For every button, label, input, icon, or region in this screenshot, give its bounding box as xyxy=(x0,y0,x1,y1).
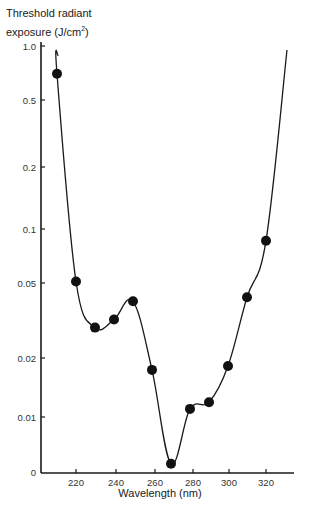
x-axis-ticks: 220240260280300320 xyxy=(68,469,274,488)
data-point-marker xyxy=(185,404,195,414)
chart-plot: 1.00.50.20.10.050.020.010 22024026028030… xyxy=(0,0,310,520)
data-point-marker xyxy=(90,323,100,333)
data-point-marker xyxy=(204,397,214,407)
data-point-marker xyxy=(52,69,62,79)
data-points xyxy=(52,69,271,469)
data-curve xyxy=(56,50,287,464)
y-tick-label: 0.5 xyxy=(23,95,36,106)
data-point-marker xyxy=(166,459,176,469)
data-point-marker xyxy=(223,361,233,371)
data-point-marker xyxy=(242,292,252,302)
x-tick-label: 300 xyxy=(221,477,237,488)
y-tick-label: 0.1 xyxy=(23,224,36,235)
y-tick-label: 0 xyxy=(31,467,36,478)
x-tick-label: 220 xyxy=(68,477,84,488)
data-point-marker xyxy=(71,277,81,287)
axes xyxy=(41,42,294,473)
y-tick-label: 0.05 xyxy=(18,278,37,289)
data-point-marker xyxy=(147,365,157,375)
data-point-marker xyxy=(128,296,138,306)
data-point-marker xyxy=(261,236,271,246)
y-tick-label: 0.2 xyxy=(23,162,36,173)
data-point-marker xyxy=(109,315,119,325)
y-tick-label: 1.0 xyxy=(23,41,36,52)
x-axis-title: Wavelength (nm) xyxy=(118,487,201,499)
y-tick-label: 0.02 xyxy=(18,353,37,364)
y-tick-label: 0.01 xyxy=(18,412,37,423)
x-tick-label: 320 xyxy=(258,477,274,488)
